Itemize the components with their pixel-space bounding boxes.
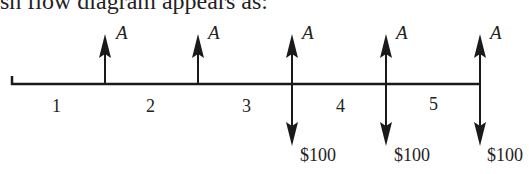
period-label: 1 (52, 96, 61, 117)
period-label: 4 (336, 96, 345, 117)
disbursement-label: $100 (487, 145, 523, 166)
period-label: 2 (146, 96, 155, 117)
disbursement-arrow-2 (380, 84, 392, 146)
receipt-arrow-1 (99, 34, 111, 84)
receipt-label: A (116, 22, 128, 44)
receipt-arrow-5 (474, 34, 486, 84)
disbursement-label: $100 (394, 145, 430, 166)
receipt-arrow-4 (380, 34, 392, 84)
receipt-arrow-2 (192, 34, 204, 84)
cash-flow-diagram (0, 0, 529, 174)
receipt-arrow-3 (286, 34, 298, 84)
disbursement-arrow-1 (286, 84, 298, 146)
receipt-label: A (396, 22, 408, 44)
receipt-label: A (302, 22, 314, 44)
receipt-label: A (208, 22, 220, 44)
period-label: 3 (242, 96, 251, 117)
disbursement-arrow-3 (474, 84, 486, 146)
time-axis (11, 76, 481, 85)
receipt-label: A (490, 22, 502, 44)
period-label: 5 (429, 94, 438, 115)
disbursement-label: $100 (300, 145, 336, 166)
